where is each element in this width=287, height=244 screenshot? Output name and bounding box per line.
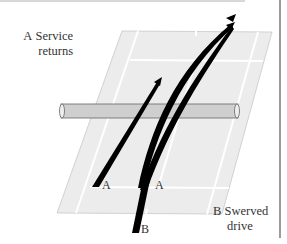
- arrowhead-top-1: [226, 14, 236, 22]
- net: [60, 104, 240, 118]
- label-b-letter: B: [213, 204, 221, 218]
- marker-b: B: [141, 222, 149, 237]
- label-service-returns: A Service returns: [13, 29, 73, 59]
- label-swerved-drive: B Swerved drive: [213, 204, 283, 234]
- marker-a2: A: [155, 178, 164, 193]
- label-a-letter: A: [23, 29, 32, 43]
- label-b-line1: Swerved: [224, 204, 268, 218]
- label-a-line2: returns: [13, 44, 73, 59]
- label-a-line1: Service: [36, 29, 73, 43]
- label-b-line2: drive: [213, 219, 283, 234]
- marker-a1: A: [102, 178, 111, 193]
